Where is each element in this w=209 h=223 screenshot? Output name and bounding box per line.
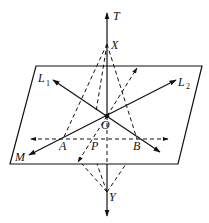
- label-a: A: [58, 139, 67, 153]
- dash-y-b: [107, 164, 126, 192]
- label-m: M: [14, 150, 26, 164]
- label-l2: L: [177, 75, 185, 89]
- label-o: O: [101, 118, 110, 132]
- dash-y-p: [97, 164, 107, 192]
- label-l1-subscript: 1: [46, 79, 50, 88]
- label-y: Y: [109, 190, 117, 204]
- geometry-diagram: T X O Y A P B M L 1 L 2: [0, 0, 209, 223]
- label-t: T: [113, 9, 121, 23]
- dash-y-a: [82, 164, 107, 192]
- dash-ray-op-up: [107, 68, 137, 116]
- label-p: P: [90, 139, 99, 153]
- label-l1: L: [37, 71, 45, 85]
- label-x: X: [110, 38, 119, 52]
- label-l2-subscript: 2: [186, 82, 190, 91]
- label-b: B: [133, 139, 141, 153]
- dash-x-p: [96, 44, 107, 112]
